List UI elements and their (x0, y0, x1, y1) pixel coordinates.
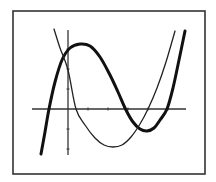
graph-plot (0, 0, 216, 182)
axes (32, 30, 186, 155)
thick-cubic-curve (41, 31, 185, 154)
curves (41, 29, 185, 154)
